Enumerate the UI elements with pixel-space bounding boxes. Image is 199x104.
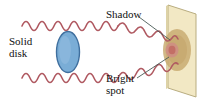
- label-shadow: Shadow: [106, 9, 141, 21]
- label-bright-spot-line1: Bright: [106, 73, 134, 85]
- bright-spot-leader-line: [137, 57, 169, 78]
- label-bright-spot-line2: spot: [106, 85, 134, 97]
- label-solid-disk: Solid disk: [9, 36, 32, 59]
- label-solid-disk-line1: Solid: [9, 36, 32, 48]
- label-shadow-line1: Shadow: [106, 9, 141, 21]
- bright-spot: [166, 43, 179, 58]
- lower-wavefront: [22, 74, 118, 83]
- label-solid-disk-line2: disk: [9, 48, 32, 60]
- label-bright-spot: Bright spot: [106, 73, 134, 96]
- solid-disk: [57, 32, 80, 73]
- bright-spot-core: [169, 46, 176, 54]
- physics-diagram-poisson-spot: Solid disk Shadow Bright spot: [0, 0, 199, 104]
- disk-highlight: [59, 36, 71, 64]
- upper-wavefront: [22, 22, 118, 31]
